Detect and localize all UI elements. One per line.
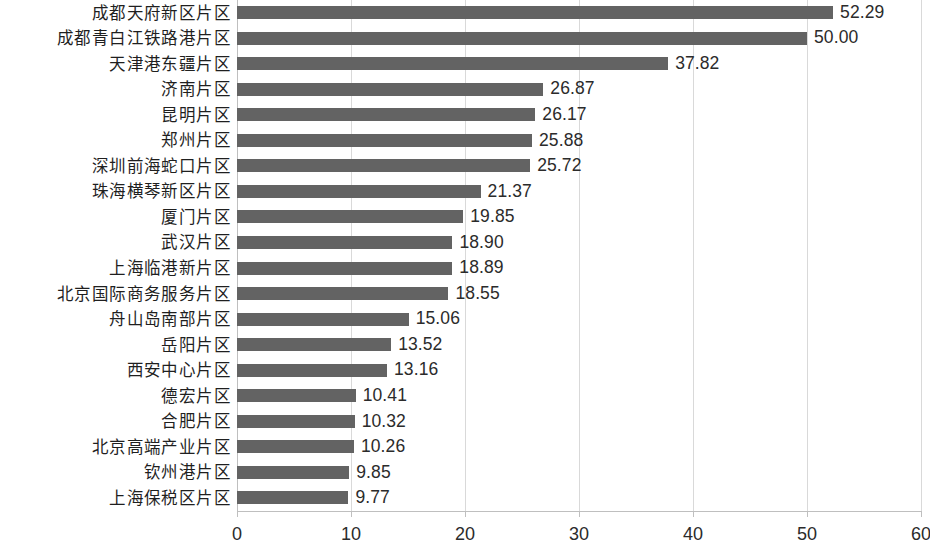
bar-row[interactable]: 50.00 bbox=[237, 26, 921, 52]
bar[interactable] bbox=[237, 210, 463, 223]
bar-value-label: 25.88 bbox=[539, 131, 583, 149]
bar-row[interactable]: 26.87 bbox=[237, 77, 921, 103]
bar-row[interactable]: 26.17 bbox=[237, 102, 921, 128]
bar[interactable] bbox=[237, 32, 807, 45]
bar[interactable] bbox=[237, 415, 355, 428]
x-tick-mark-20 bbox=[465, 511, 466, 517]
category-label: 济南片区 bbox=[161, 77, 231, 103]
bar-value-label: 18.89 bbox=[459, 259, 503, 277]
bar-value-label: 52.29 bbox=[840, 4, 884, 22]
category-label: 舟山岛南部片区 bbox=[109, 307, 231, 333]
x-tick-label: 20 bbox=[455, 525, 475, 543]
category-label: 上海临港新片区 bbox=[109, 256, 231, 282]
category-label: 武汉片区 bbox=[161, 230, 231, 256]
bar-value-label: 10.32 bbox=[362, 412, 406, 430]
x-tick-label: 10 bbox=[341, 525, 361, 543]
bar-row[interactable]: 15.06 bbox=[237, 307, 921, 333]
bar-row[interactable]: 18.89 bbox=[237, 256, 921, 282]
bar-value-label: 13.16 bbox=[394, 361, 438, 379]
category-label: 北京国际商务服务片区 bbox=[57, 281, 231, 307]
category-label: 成都天府新区片区 bbox=[92, 0, 231, 26]
plot-area: 52.2950.0037.8226.8726.1725.8825.7221.37… bbox=[237, 0, 921, 511]
bar[interactable] bbox=[237, 338, 391, 351]
bar[interactable] bbox=[237, 83, 543, 96]
bar-value-label: 10.41 bbox=[363, 387, 407, 405]
category-label: 上海保税区片区 bbox=[109, 485, 231, 511]
bar[interactable] bbox=[237, 389, 356, 402]
bar[interactable] bbox=[237, 466, 349, 479]
bar[interactable] bbox=[237, 364, 387, 377]
bar-value-label: 13.52 bbox=[398, 336, 442, 354]
bar-row[interactable]: 52.29 bbox=[237, 0, 921, 26]
bar-row[interactable]: 9.85 bbox=[237, 460, 921, 486]
bar[interactable] bbox=[237, 236, 452, 249]
bar-row[interactable]: 10.32 bbox=[237, 409, 921, 435]
bar-value-label: 18.90 bbox=[459, 234, 503, 252]
x-tick-mark-40 bbox=[693, 511, 694, 517]
category-label: 岳阳片区 bbox=[161, 332, 231, 358]
category-label: 合肥片区 bbox=[161, 409, 231, 435]
bar-row[interactable]: 25.88 bbox=[237, 128, 921, 154]
category-label: 德宏片区 bbox=[161, 383, 231, 409]
bar-row[interactable]: 13.52 bbox=[237, 332, 921, 358]
category-label: 成都青白江铁路港片区 bbox=[57, 26, 231, 52]
category-label: 深圳前海蛇口片区 bbox=[92, 153, 231, 179]
bar-value-label: 19.85 bbox=[470, 208, 514, 226]
x-tick-label: 30 bbox=[569, 525, 589, 543]
bar-value-label: 26.17 bbox=[542, 106, 586, 124]
bar-row[interactable]: 21.37 bbox=[237, 179, 921, 205]
bar-row[interactable]: 10.41 bbox=[237, 383, 921, 409]
bar-value-label: 21.37 bbox=[488, 183, 532, 201]
bar[interactable] bbox=[237, 6, 833, 19]
x-tick-mark-50 bbox=[807, 511, 808, 517]
bar-row[interactable]: 9.77 bbox=[237, 485, 921, 511]
x-tick-mark-0 bbox=[237, 511, 238, 517]
x-tick-label: 50 bbox=[797, 525, 817, 543]
bar-value-label: 25.72 bbox=[537, 157, 581, 175]
bar-value-label: 10.26 bbox=[361, 438, 405, 456]
bar-row[interactable]: 18.55 bbox=[237, 281, 921, 307]
bar[interactable] bbox=[237, 287, 448, 300]
bar-value-label: 15.06 bbox=[416, 310, 460, 328]
x-tick-mark-30 bbox=[579, 511, 580, 517]
x-tick-mark-10 bbox=[351, 511, 352, 517]
bar[interactable] bbox=[237, 440, 354, 453]
category-label: 郑州片区 bbox=[161, 128, 231, 154]
x-axis-ticks: 0102030405060 bbox=[237, 511, 921, 549]
bar[interactable] bbox=[237, 108, 535, 121]
bar-row[interactable]: 13.16 bbox=[237, 358, 921, 384]
x-tick-mark-60 bbox=[921, 511, 922, 517]
category-label: 北京高端产业片区 bbox=[92, 434, 231, 460]
gridline-60 bbox=[921, 0, 922, 511]
bar-value-label: 26.87 bbox=[550, 80, 594, 98]
bar-value-label: 9.77 bbox=[355, 489, 389, 507]
bar[interactable] bbox=[237, 185, 481, 198]
bar[interactable] bbox=[237, 491, 348, 504]
bar-value-label: 9.85 bbox=[356, 464, 390, 482]
category-label: 西安中心片区 bbox=[127, 358, 231, 384]
category-label: 昆明片区 bbox=[161, 102, 231, 128]
bar-value-label: 18.55 bbox=[455, 285, 499, 303]
bar-row[interactable]: 19.85 bbox=[237, 204, 921, 230]
bar[interactable] bbox=[237, 313, 409, 326]
bar[interactable] bbox=[237, 57, 668, 70]
bar-row[interactable]: 10.26 bbox=[237, 434, 921, 460]
bar[interactable] bbox=[237, 262, 452, 275]
category-label: 钦州港片区 bbox=[144, 460, 231, 486]
x-tick-label: 40 bbox=[683, 525, 703, 543]
bar-row[interactable]: 37.82 bbox=[237, 51, 921, 77]
bar-chart: 成都天府新区片区成都青白江铁路港片区天津港东疆片区济南片区昆明片区郑州片区深圳前… bbox=[0, 0, 930, 549]
bar[interactable] bbox=[237, 134, 532, 147]
bar-row[interactable]: 18.90 bbox=[237, 230, 921, 256]
bar-value-label: 37.82 bbox=[675, 55, 719, 73]
bar-row[interactable]: 25.72 bbox=[237, 153, 921, 179]
x-tick-label: 0 bbox=[232, 525, 242, 543]
x-tick-label: 60 bbox=[911, 525, 930, 543]
bar[interactable] bbox=[237, 159, 530, 172]
bar-series: 52.2950.0037.8226.8726.1725.8825.7221.37… bbox=[237, 0, 921, 511]
category-label: 天津港东疆片区 bbox=[109, 51, 231, 77]
category-axis-labels: 成都天府新区片区成都青白江铁路港片区天津港东疆片区济南片区昆明片区郑州片区深圳前… bbox=[0, 0, 231, 511]
category-label: 珠海横琴新区片区 bbox=[92, 179, 231, 205]
category-label: 厦门片区 bbox=[161, 204, 231, 230]
bar-value-label: 50.00 bbox=[814, 29, 858, 47]
